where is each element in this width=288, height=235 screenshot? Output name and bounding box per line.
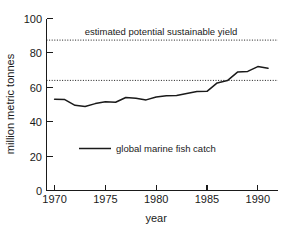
- y-tick-label-60: 60: [30, 82, 42, 94]
- x-tick-label-1990: 1990: [246, 193, 270, 205]
- y-axis-title: million metric tonnes: [4, 53, 16, 154]
- y-tick-label-100: 100: [24, 13, 42, 25]
- x-axis-title: year: [145, 212, 167, 224]
- x-tick-label-1975: 1975: [93, 193, 117, 205]
- y-tick-label-80: 80: [30, 47, 42, 59]
- annotation-sustainable-yield: estimated potential sustainable yield: [85, 26, 238, 37]
- legend-label-global-marine-fish-catch: global marine fish catch: [116, 143, 216, 154]
- line-chart: 100 80 60 40 20 0 1970 1975 1980 1985 19…: [0, 0, 288, 235]
- x-tick-label-1985: 1985: [195, 193, 219, 205]
- x-tick-label-1980: 1980: [144, 193, 168, 205]
- chart-container: 100 80 60 40 20 0 1970 1975 1980 1985 19…: [0, 0, 288, 235]
- y-tick-label-0: 0: [36, 185, 42, 197]
- y-tick-label-20: 20: [30, 151, 42, 163]
- x-tick-label-1970: 1970: [42, 193, 66, 205]
- y-tick-label-40: 40: [30, 116, 42, 128]
